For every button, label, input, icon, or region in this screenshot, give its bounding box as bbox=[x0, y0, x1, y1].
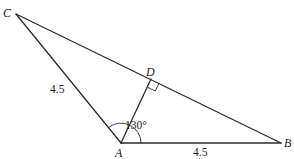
vertex-label-c: C bbox=[3, 6, 12, 20]
length-label-ca: 4.5 bbox=[50, 83, 65, 95]
vertex-label-b: B bbox=[284, 136, 292, 150]
segment-ad-altitude bbox=[121, 79, 151, 143]
angle-label-cab: 130° bbox=[125, 119, 147, 131]
segment-ca bbox=[16, 14, 121, 143]
diagram-canvas: C A B D 4.5 4.5 130° bbox=[0, 0, 294, 159]
triangle-diagram: C A B D 4.5 4.5 130° bbox=[0, 0, 294, 159]
vertex-label-d: D bbox=[145, 65, 155, 79]
vertex-label-a: A bbox=[114, 146, 123, 159]
length-label-ab: 4.5 bbox=[193, 146, 208, 158]
